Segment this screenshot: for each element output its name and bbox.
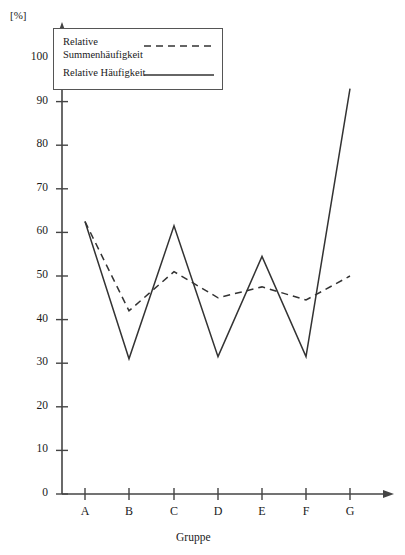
x-tick-label-b: B [118, 504, 140, 519]
y-tick-label: 60 [14, 224, 48, 236]
y-tick-label: 40 [14, 312, 48, 324]
legend-label-line1: Relative Häufigkeit [63, 67, 146, 80]
y-tick-label: 90 [14, 94, 48, 106]
legend-label-line1: Relative [63, 36, 143, 49]
chart-legend: Relative Summenhäufigkeit Relative Häufi… [53, 28, 223, 90]
x-tick-label-a: A [74, 504, 96, 519]
legend-label-line2: Summenhäufigkeit [63, 49, 143, 62]
legend-swatch-dashed [144, 43, 214, 49]
y-tick-label: 10 [14, 442, 48, 454]
y-tick-label: 30 [14, 355, 48, 367]
y-tick-label: 0 [14, 486, 48, 498]
x-axis-title: Gruppe [176, 531, 211, 543]
y-axis-unit-label: [%] [10, 9, 27, 21]
legend-entry-relative: Relative Häufigkeit [63, 67, 146, 80]
x-axis-arrow-icon [383, 490, 394, 498]
y-tick-label: 20 [14, 399, 48, 411]
y-tick-label: 80 [14, 137, 48, 149]
y-tick-label: 70 [14, 181, 48, 193]
chart-canvas: [%] Gruppe 0102030405060708090100 ABCDEF… [0, 0, 405, 555]
series-relative-haeufigkeit [85, 89, 350, 359]
y-tick-label: 50 [14, 268, 48, 280]
x-tick-label-f: F [295, 504, 317, 519]
series-relative-summenhaeufigkeit [85, 222, 350, 311]
legend-swatch-solid [144, 72, 214, 78]
y-tick-label: 100 [14, 50, 48, 62]
x-tick-label-e: E [251, 504, 273, 519]
x-tick-label-g: G [339, 504, 361, 519]
x-tick-label-c: C [163, 504, 185, 519]
legend-entry-cumulative: Relative Summenhäufigkeit [63, 36, 143, 61]
x-tick-label-d: D [207, 504, 229, 519]
axes-group [58, 22, 394, 498]
